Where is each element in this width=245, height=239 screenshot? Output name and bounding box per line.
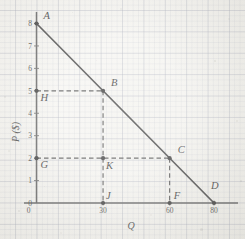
scan-speck (18, 210, 20, 212)
x-tick-60: 60 (166, 206, 174, 215)
point-marker-C (168, 156, 172, 160)
point-label-J: J (106, 190, 112, 201)
y-tick-5: 5 (28, 87, 32, 96)
x-tick-30: 30 (99, 206, 107, 215)
data-points: ABCDHGKJF (34, 10, 219, 206)
scan-speck (228, 18, 230, 20)
x-axis-title: Q (127, 220, 135, 231)
y-tick-8: 8 (28, 19, 32, 28)
scan-speck (72, 12, 73, 13)
point-marker-K (101, 156, 105, 160)
y-axis-title: P ($) (10, 121, 22, 143)
y-tick-1: 1 (28, 176, 32, 185)
scan-speck (60, 232, 62, 234)
point-marker-F (168, 201, 172, 205)
scan-speck (12, 30, 14, 32)
point-label-B: B (111, 77, 118, 88)
demand-curve-chart: P ($) Q 012345678 0306080 ABCDHGKJF (0, 0, 245, 239)
point-marker-J (101, 201, 105, 205)
y-tick-3: 3 (28, 131, 32, 140)
point-label-K: K (105, 160, 114, 171)
x-tick-80: 80 (210, 206, 218, 215)
y-tick-labels: 012345678 (28, 19, 39, 208)
y-tick-7: 7 (28, 42, 32, 51)
scan-speck (214, 60, 216, 62)
scan-speck (176, 96, 177, 97)
axes (24, 12, 238, 203)
x-tick-0: 0 (27, 206, 31, 215)
scan-speck (200, 228, 203, 231)
series-demand-line (37, 24, 215, 204)
scan-speck (8, 150, 10, 152)
scan-speck (4, 96, 6, 98)
point-label-H: H (40, 92, 50, 103)
point-marker-D (212, 201, 216, 205)
scan-speck (96, 60, 97, 61)
point-label-G: G (41, 159, 49, 170)
point-label-D: D (210, 180, 219, 191)
y-tick-6: 6 (28, 64, 32, 73)
point-marker-B (101, 89, 105, 93)
y-tick-4: 4 (28, 109, 32, 118)
guide-lines (37, 91, 170, 203)
point-label-C: C (178, 144, 186, 155)
scan-speck (240, 180, 242, 182)
data-series (37, 24, 215, 204)
point-label-F: F (173, 190, 181, 201)
point-marker-G (34, 156, 38, 160)
scan-speck (44, 186, 45, 187)
scan-speck (236, 120, 238, 122)
point-marker-H (34, 89, 38, 93)
point-marker-A (34, 21, 38, 25)
scan-speck (120, 8, 122, 10)
point-label-A: A (43, 10, 51, 21)
y-tick-2: 2 (28, 154, 32, 163)
scan-speck (150, 214, 152, 216)
